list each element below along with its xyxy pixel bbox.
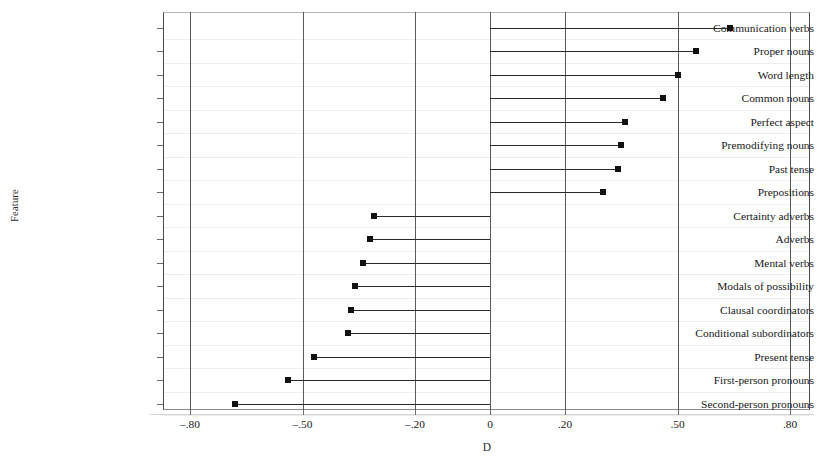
x-axis-tick-label: 0 <box>455 418 525 430</box>
gridline-20-neg <box>415 12 416 410</box>
gridline-0 <box>490 12 491 410</box>
row-rule <box>164 63 809 64</box>
y-tick <box>157 380 163 381</box>
data-point-marker <box>618 142 624 148</box>
data-stem <box>370 239 490 240</box>
row-rule <box>164 157 809 158</box>
y-tick <box>157 333 163 334</box>
y-axis-label-certainty-adverbs: Certainty adverbs <box>662 210 814 222</box>
y-tick <box>157 192 163 193</box>
x-axis-tick-label: –.80 <box>155 418 225 430</box>
x-tick <box>790 410 791 415</box>
x-axis-tick-label: .20 <box>530 418 600 430</box>
y-tick <box>157 169 163 170</box>
y-axis-label-first-person-pronouns: First-person pronouns <box>662 374 814 386</box>
data-stem <box>288 380 491 381</box>
y-tick <box>157 75 163 76</box>
gridline-50-neg <box>303 12 304 410</box>
data-point-marker <box>622 119 628 125</box>
y-tick <box>157 122 163 123</box>
data-point-marker <box>348 307 354 313</box>
data-stem <box>235 404 490 405</box>
y-tick <box>157 239 163 240</box>
x-tick <box>190 410 191 415</box>
row-rule <box>164 39 809 40</box>
data-point-marker <box>727 25 733 31</box>
x-axis-title: D <box>163 441 811 453</box>
x-tick <box>303 410 304 415</box>
y-axis-label-prepositions: Prepositions <box>662 186 814 198</box>
x-tick <box>678 410 679 415</box>
y-tick <box>157 216 163 217</box>
row-rule <box>164 133 809 134</box>
data-point-marker <box>675 72 681 78</box>
y-axis-label-second-person-pronouns: Second-person pronouns <box>662 398 814 410</box>
data-point-marker <box>360 260 366 266</box>
gridline-80-neg <box>190 12 191 410</box>
row-rule <box>164 204 809 205</box>
data-point-marker <box>285 377 291 383</box>
y-tick <box>157 310 163 311</box>
data-stem <box>355 286 490 287</box>
data-stem <box>490 75 678 76</box>
x-axis-tick-label: –.50 <box>268 418 338 430</box>
row-rule <box>164 392 809 393</box>
data-stem <box>490 28 730 29</box>
y-axis-label-clausal-coordinators: Clausal coordinators <box>662 304 814 316</box>
data-stem <box>374 216 490 217</box>
data-stem <box>363 263 491 264</box>
data-point-marker <box>352 283 358 289</box>
row-rule <box>164 110 809 111</box>
y-axis-label-adverbs: Adverbs <box>662 233 814 245</box>
y-axis-label-modals-of-possibility: Modals of possibility <box>662 280 814 292</box>
y-axis-label-mental-verbs: Mental verbs <box>662 257 814 269</box>
data-point-marker <box>345 330 351 336</box>
data-stem <box>490 122 625 123</box>
axis-baseline <box>150 414 814 415</box>
data-point-marker <box>367 236 373 242</box>
y-tick <box>157 98 163 99</box>
data-point-marker <box>311 354 317 360</box>
data-point-marker <box>615 166 621 172</box>
x-axis-tick-label: .50 <box>643 418 713 430</box>
gridline-20 <box>565 12 566 410</box>
y-tick <box>157 263 163 264</box>
row-rule <box>164 227 809 228</box>
data-stem <box>348 333 491 334</box>
data-stem <box>490 192 603 193</box>
row-rule <box>164 298 809 299</box>
y-axis-title: Feature <box>9 166 20 246</box>
y-axis-label-conditional-subordinators: Conditional subordinators <box>662 327 814 339</box>
x-tick <box>565 410 566 415</box>
y-tick <box>157 145 163 146</box>
x-axis-tick-label: .80 <box>755 418 819 430</box>
y-axis-label-past-tense: Past tense <box>662 163 814 175</box>
x-tick <box>415 410 416 415</box>
row-rule <box>164 345 809 346</box>
row-rule <box>164 180 809 181</box>
x-axis-tick-label: –.20 <box>380 418 450 430</box>
row-rule <box>164 251 809 252</box>
data-point-marker <box>693 48 699 54</box>
data-stem <box>490 169 618 170</box>
data-point-marker <box>600 189 606 195</box>
data-stem <box>490 145 621 146</box>
y-tick <box>157 404 163 405</box>
x-tick <box>490 410 491 415</box>
data-stem <box>351 310 490 311</box>
row-rule <box>164 368 809 369</box>
y-axis-label-common-nouns: Common nouns <box>662 92 814 104</box>
y-tick <box>157 28 163 29</box>
data-point-marker <box>660 95 666 101</box>
data-stem <box>490 51 696 52</box>
row-rule <box>164 86 809 87</box>
y-axis-label-perfect-aspect: Perfect aspect <box>662 116 814 128</box>
row-rule <box>164 321 809 322</box>
data-point-marker <box>371 213 377 219</box>
data-stem <box>314 357 490 358</box>
y-axis-label-word-length: Word length <box>662 69 814 81</box>
y-tick <box>157 286 163 287</box>
row-rule <box>164 415 809 416</box>
y-axis-label-premodifying-nouns: Premodifying nouns <box>662 139 814 151</box>
